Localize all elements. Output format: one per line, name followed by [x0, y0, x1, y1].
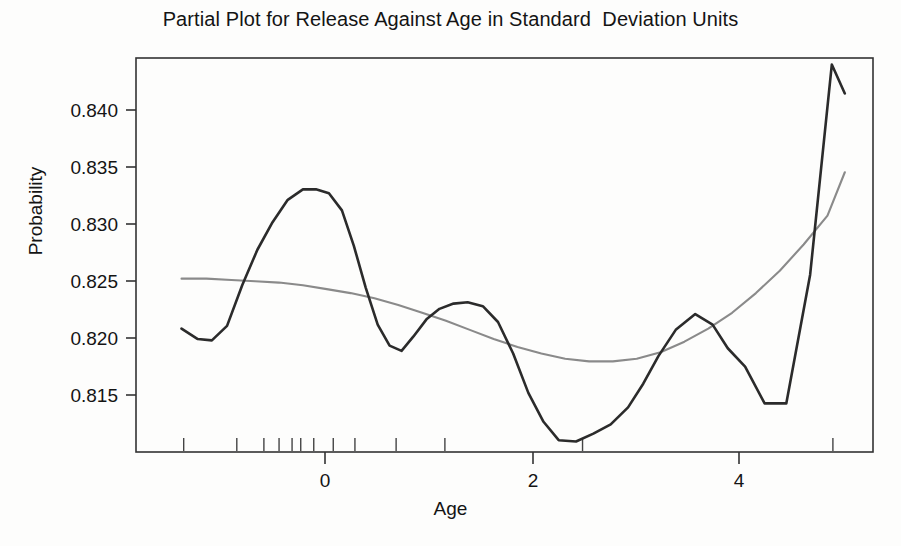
y-tick-label-0830: 0.830: [70, 214, 118, 235]
y-tick-label-0835: 0.835: [70, 157, 118, 178]
x-tick-label-0: 0: [320, 470, 331, 491]
y-tick-label-0815: 0.815: [70, 385, 118, 406]
y-tick-label-0820: 0.820: [70, 328, 118, 349]
data-density-rug: [184, 438, 833, 451]
chart-figure: Partial Plot for Release Against Age in …: [0, 0, 901, 546]
x-axis-title: Age: [0, 498, 901, 520]
y-axis-ticks: [126, 110, 136, 395]
x-tick-label-4: 4: [734, 470, 745, 491]
smooth-fit-curve: [182, 172, 845, 361]
y-tick-label-0825: 0.825: [70, 271, 118, 292]
y-tick-label-0840: 0.840: [70, 100, 118, 121]
y-axis-title: Probability: [25, 131, 47, 291]
partial-residual-curve: [182, 65, 845, 442]
x-axis-ticks: [325, 452, 739, 464]
plot-area: 0.840 0.835 0.830 0.825 0.820 0.815 0 2 …: [0, 0, 901, 546]
plot-frame: [136, 58, 873, 452]
x-tick-label-2: 2: [528, 470, 539, 491]
